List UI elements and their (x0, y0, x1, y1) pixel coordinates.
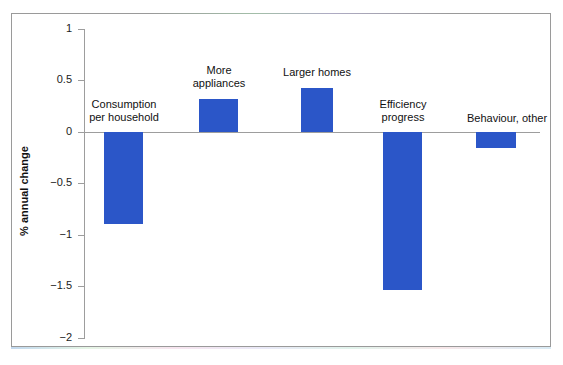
scan-edge-fringe-top (150, 13, 450, 14)
y-tick-0: 0 (0, 132, 72, 133)
y-tick-mark-neg0point5 (78, 183, 84, 184)
y-tick-neg2: −2 (0, 338, 72, 339)
bar-label-consumption-per-household: Consumption per household (79, 98, 169, 124)
y-tick-mark-0 (78, 132, 84, 133)
bar-label-larger-homes: Larger homes (271, 66, 363, 79)
y-tick-label-neg0point5: −0.5 (36, 177, 72, 188)
bar-label-more-appliances: More appliances (176, 64, 262, 90)
y-tick-label-neg1point5: −1.5 (36, 280, 72, 291)
y-tick-label-neg2: −2 (36, 332, 72, 343)
bar-more-appliances[interactable] (199, 99, 238, 132)
y-axis-title: % annual change (18, 136, 30, 246)
y-tick-mark-0point5 (78, 80, 84, 81)
y-tick-label-1: 1 (36, 23, 72, 34)
scan-edge-fringe (11, 347, 551, 349)
y-tick-neg0point5: −0.5 (0, 183, 72, 184)
y-tick-label-0: 0 (36, 126, 72, 137)
bar-label-efficiency-progress: Efficiency progress (360, 98, 446, 124)
bar-consumption-per-household[interactable] (104, 132, 143, 224)
zero-baseline (84, 132, 540, 133)
bar-efficiency-progress[interactable] (383, 132, 422, 290)
y-tick-neg1: −1 (0, 235, 72, 236)
y-tick-mark-neg1point5 (78, 286, 84, 287)
y-tick-neg1point5: −1.5 (0, 286, 72, 287)
y-tick-0point5: 0.5 (0, 80, 72, 81)
y-tick-label-neg1: −1 (36, 229, 72, 240)
bar-behaviour-other[interactable] (476, 132, 516, 148)
y-tick-mark-neg1 (78, 235, 84, 236)
bar-label-behaviour-other: Behaviour, other (452, 112, 562, 125)
y-tick-1: 1 (0, 29, 72, 30)
y-tick-label-0point5: 0.5 (36, 74, 72, 85)
bar-larger-homes[interactable] (301, 88, 333, 132)
bar-chart-plot-area: 1 0.5 0 −0.5 −1 −1.5 −2 % annual change … (0, 0, 563, 365)
y-tick-mark-neg2 (78, 338, 84, 339)
y-tick-mark-1 (78, 29, 84, 30)
y-axis-line (84, 29, 85, 339)
